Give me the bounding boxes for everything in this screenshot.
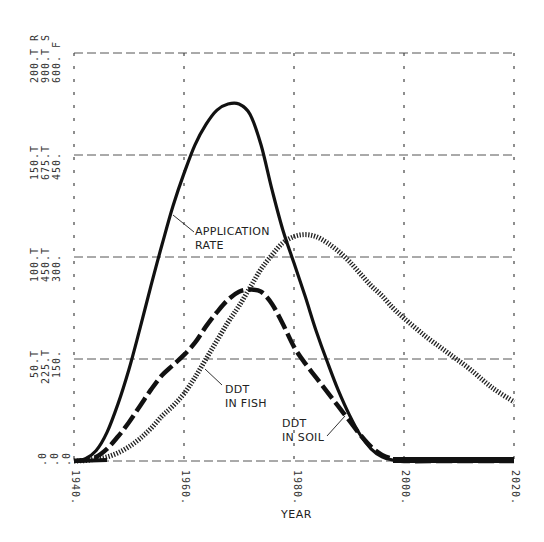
x-tick-2020: 2020. xyxy=(510,470,520,505)
pointer-ddt-in-fish xyxy=(205,369,222,385)
y-tick-600-f: 600. F xyxy=(52,41,62,83)
annotation-application-rate-line1: APPLICATION xyxy=(195,225,270,239)
y-tick-100-r: 100.T xyxy=(30,247,40,282)
y-tick-0-s: .0 xyxy=(50,452,60,466)
baseline-start xyxy=(74,460,107,461)
annotation-application-rate: APPLICATION RATE xyxy=(195,225,270,253)
y-tick-150-r: 150.T xyxy=(30,145,40,180)
y-tick-0-f: .0 xyxy=(62,452,72,466)
x-tick-1960: 1960. xyxy=(180,470,190,505)
x-tick-2000: 2000. xyxy=(400,470,410,505)
pointer-application-rate xyxy=(173,215,194,232)
x-tick-1940: 1940. xyxy=(70,470,80,505)
ddt-line-chart xyxy=(0,0,544,542)
annotation-ddt-in-fish-line2: IN FISH xyxy=(225,397,267,411)
annotation-ddt-in-soil-line1: DDT xyxy=(282,417,324,431)
baseline-band xyxy=(393,457,514,463)
y-tick-675-s: 675.T xyxy=(41,145,51,180)
y-tick-900-s: 900.T S xyxy=(41,34,51,83)
annotation-ddt-in-fish: DDT IN FISH xyxy=(225,383,267,411)
y-tick-300-f: 300. xyxy=(52,254,62,282)
y-tick-50-r: 50.T xyxy=(30,350,40,378)
annotation-application-rate-line2: RATE xyxy=(195,239,270,253)
annotation-ddt-in-soil: DDT IN SOIL xyxy=(282,417,324,445)
annotation-ddt-in-soil-line2: IN SOIL xyxy=(282,431,324,445)
y-tick-225-s: 225.T xyxy=(41,349,51,384)
y-tick-150-f: 150. xyxy=(52,350,62,378)
y-tick-450-f: 450. xyxy=(52,152,62,180)
annotation-ddt-in-fish-line1: DDT xyxy=(225,383,267,397)
y-tick-0-r: .0 xyxy=(38,452,48,466)
data-curves xyxy=(74,103,514,463)
y-tick-450-s: 450.T xyxy=(41,247,51,282)
x-axis-title: YEAR xyxy=(281,508,312,521)
x-tick-1980: 1980. xyxy=(292,470,302,505)
pointer-ddt-in-soil xyxy=(327,416,345,436)
y-tick-200-r: 200.T R xyxy=(30,34,40,83)
